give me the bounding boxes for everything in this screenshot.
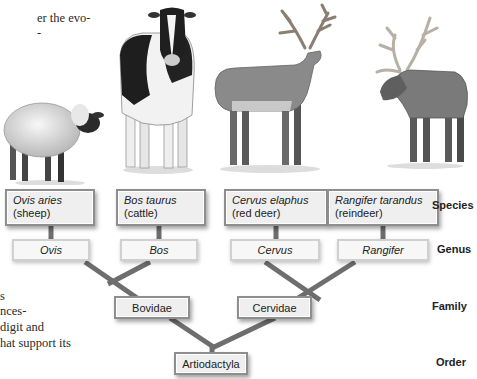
genus-box-cervus: Cervus bbox=[230, 239, 320, 261]
genus-box-ovis: Ovis bbox=[12, 239, 90, 261]
rank-label-genus: Genus bbox=[437, 243, 471, 255]
species-scientific-name: Bos taurus bbox=[124, 194, 198, 207]
rank-label-species: Species bbox=[432, 199, 474, 211]
species-common-name: (reindeer) bbox=[335, 207, 431, 220]
species-box-rangifer-tarandus: Rangifer tarandus (reindeer) bbox=[327, 189, 439, 226]
species-common-name: (sheep) bbox=[13, 207, 87, 220]
family-box-cervidae: Cervidae bbox=[237, 296, 312, 319]
species-scientific-name: Ovis aries bbox=[13, 194, 87, 207]
species-box-cervus-elaphus: Cervus elaphus (red deer) bbox=[224, 189, 328, 226]
species-common-name: (cattle) bbox=[124, 207, 198, 220]
species-scientific-name: Cervus elaphus bbox=[232, 194, 320, 207]
species-common-name: (red deer) bbox=[232, 207, 320, 220]
family-box-bovidae: Bovidae bbox=[114, 296, 190, 319]
species-scientific-name: Rangifer tarandus bbox=[335, 194, 431, 207]
species-box-bos-taurus: Bos taurus (cattle) bbox=[116, 189, 206, 226]
rank-label-family: Family bbox=[432, 300, 467, 312]
order-box-artiodactyla: Artiodactyla bbox=[174, 352, 248, 375]
species-box-ovis-aries: Ovis aries (sheep) bbox=[5, 189, 95, 226]
genus-box-rangifer: Rangifer bbox=[337, 239, 429, 261]
genus-box-bos: Bos bbox=[120, 239, 198, 261]
rank-label-order: Order bbox=[436, 356, 466, 368]
